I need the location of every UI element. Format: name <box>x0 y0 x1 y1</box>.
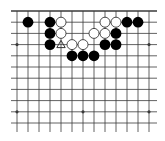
white-stone[interactable] <box>100 17 110 27</box>
black-stone[interactable] <box>67 50 78 61</box>
black-stone[interactable] <box>78 50 89 61</box>
white-stone[interactable] <box>67 40 77 50</box>
black-stone[interactable] <box>122 17 133 28</box>
star-point <box>147 43 150 46</box>
black-stone[interactable] <box>111 39 122 50</box>
white-stone[interactable] <box>78 40 88 50</box>
black-stone[interactable] <box>111 28 122 39</box>
white-stone[interactable] <box>100 28 110 38</box>
board-grid <box>11 11 157 132</box>
black-stone[interactable] <box>45 39 56 50</box>
white-stone[interactable] <box>111 17 121 27</box>
star-point <box>15 110 18 113</box>
go-board[interactable] <box>0 0 165 141</box>
star-point <box>15 43 18 46</box>
black-stone[interactable] <box>100 39 111 50</box>
black-stone[interactable] <box>23 17 34 28</box>
black-stone[interactable] <box>45 17 56 28</box>
go-board-canvas[interactable] <box>0 0 165 141</box>
black-stone[interactable] <box>89 50 100 61</box>
black-stone[interactable] <box>45 28 56 39</box>
star-point <box>81 110 84 113</box>
white-stone[interactable] <box>56 17 66 27</box>
white-stone[interactable] <box>56 28 66 38</box>
black-stone[interactable] <box>133 17 144 28</box>
star-point <box>147 110 150 113</box>
white-stone[interactable] <box>89 28 99 38</box>
